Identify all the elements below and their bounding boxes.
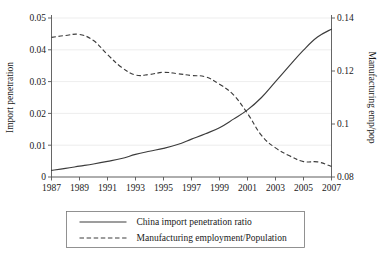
x-axis-tick-label: 1989 <box>70 183 89 193</box>
y-axis-left-title: Import penetration <box>5 62 15 133</box>
y-axis-right-tick-label: 0.08 <box>337 172 354 182</box>
y-axis-left-tick-label: 0.05 <box>29 13 46 23</box>
legend-label: Manufacturing employment/Population <box>137 233 287 243</box>
y-axis-right-title: Manufacturing emp/pop <box>367 51 377 143</box>
x-axis-tick-label: 2007 <box>322 183 341 193</box>
y-axis-right-tick-label: 0.12 <box>337 66 354 76</box>
x-axis-tick-label: 1991 <box>98 183 117 193</box>
legend-label: China import penetration ratio <box>137 217 253 227</box>
x-axis-tick-label: 1999 <box>210 183 229 193</box>
x-axis-tick-label: 1997 <box>182 183 201 193</box>
y-axis-left-tick-label: 0.04 <box>29 45 46 55</box>
x-axis-tick-label: 2005 <box>294 183 313 193</box>
x-axis-tick-label: 1995 <box>154 183 173 193</box>
chart-figure: 00.010.020.030.040.05 0.080.10.120.14 19… <box>0 0 380 253</box>
line-chart: 00.010.020.030.040.05 0.080.10.120.14 19… <box>0 0 380 253</box>
y-axis-left-tick-label: 0.02 <box>29 109 46 119</box>
x-axis-tick-label: 1993 <box>126 183 145 193</box>
y-axis-left-tick-label: 0.03 <box>29 77 46 87</box>
y-axis-left-tick-label: 0.01 <box>29 141 46 151</box>
chart-background <box>0 0 380 253</box>
x-axis-tick-label: 1987 <box>42 183 61 193</box>
y-axis-right-tick-label: 0.14 <box>337 13 354 23</box>
y-axis-right-tick-label: 0.1 <box>337 119 349 129</box>
y-axis-left-tick-label: 0 <box>41 172 46 182</box>
x-axis-tick-label: 2001 <box>238 183 257 193</box>
x-axis-tick-label: 2003 <box>266 183 285 193</box>
